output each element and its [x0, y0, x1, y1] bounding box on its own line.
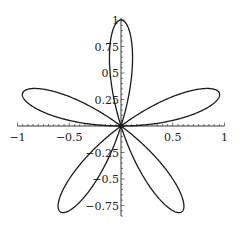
x-tick-label: −0.5 [56, 131, 83, 144]
x-tick-label: 1 [221, 131, 228, 144]
x-tick-label: −1 [9, 131, 25, 144]
axes [18, 18, 225, 216]
polar-rose-plot: −1−0.50.5110.750.50.25−0.25−0.5−0.75 [0, 0, 239, 227]
y-tick-label: −0.75 [85, 200, 119, 213]
y-tick-label: 0.75 [95, 41, 120, 54]
x-tick-label: 0.5 [164, 131, 182, 144]
